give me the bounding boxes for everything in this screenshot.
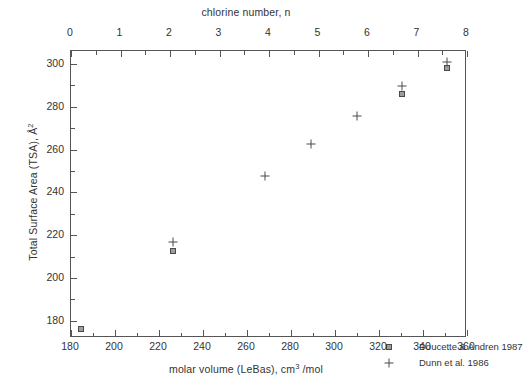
y-tick-major xyxy=(71,150,77,151)
legend-marker-plus xyxy=(385,359,394,368)
top-x-tick-major xyxy=(368,51,369,57)
top-x-tick-major xyxy=(170,51,171,57)
y-axis-title-superscript: 2 xyxy=(26,123,35,127)
y-tick-major xyxy=(71,192,77,193)
y-tick-major xyxy=(71,107,77,108)
top-x-tick-label: 0 xyxy=(67,26,73,38)
y-tick-label: 180 xyxy=(46,314,64,326)
top-x-tick-label: 1 xyxy=(117,26,123,38)
y-tick-major xyxy=(71,64,77,65)
plot-area: Doucette & Andren 1987Dunn et al. 1986 xyxy=(70,50,466,337)
top-x-tick-label: 3 xyxy=(216,26,222,38)
y-tick-major xyxy=(71,321,77,322)
y-tick-minor xyxy=(71,299,75,300)
x-tick-label: 240 xyxy=(193,340,211,352)
top-x-tick-major xyxy=(121,51,122,57)
y-tick-label: 240 xyxy=(46,185,64,197)
top-axis-title: chlorine number, n xyxy=(0,6,492,18)
y-tick-minor xyxy=(71,257,75,258)
x-tick-label: 320 xyxy=(369,340,387,352)
x-axis-title-suffix: /mol xyxy=(299,363,323,375)
top-x-tick-label: 2 xyxy=(166,26,172,38)
y-axis-title: Total Surface Area (TSA), Å2 xyxy=(27,77,39,307)
y-tick-label: 220 xyxy=(46,228,64,240)
top-x-tick-major xyxy=(71,51,72,57)
x-tick-minor xyxy=(181,333,182,337)
x-tick-label: 220 xyxy=(149,340,167,352)
x-tick-major xyxy=(467,330,468,336)
x-tick-minor xyxy=(313,333,314,337)
data-point-plus xyxy=(443,57,452,66)
top-x-tick-minor xyxy=(244,51,245,55)
y-tick-major xyxy=(71,278,77,279)
x-tick-major xyxy=(291,330,292,336)
x-tick-label: 260 xyxy=(237,340,255,352)
top-x-tick-label: 4 xyxy=(265,26,271,38)
top-x-tick-major xyxy=(319,51,320,57)
x-tick-major xyxy=(379,330,380,336)
top-x-tick-label: 8 xyxy=(463,26,469,38)
x-tick-major xyxy=(115,330,116,336)
x-tick-minor xyxy=(225,333,226,337)
x-tick-label: 340 xyxy=(413,340,431,352)
data-point-plus xyxy=(306,140,315,149)
x-axis-title-text: molar volume (LeBas), cm xyxy=(169,363,295,375)
top-x-tick-minor xyxy=(195,51,196,55)
x-tick-minor xyxy=(137,333,138,337)
y-tick-label: 300 xyxy=(46,57,64,69)
x-tick-minor xyxy=(401,333,402,337)
x-tick-minor xyxy=(269,333,270,337)
top-x-tick-major xyxy=(269,51,270,57)
top-x-tick-minor xyxy=(96,51,97,55)
x-tick-label: 200 xyxy=(105,340,123,352)
data-point-plus xyxy=(168,238,177,247)
x-tick-major xyxy=(247,330,248,336)
data-point-square xyxy=(170,248,176,254)
x-tick-label: 180 xyxy=(61,340,79,352)
top-x-tick-minor xyxy=(393,51,394,55)
x-tick-minor xyxy=(93,333,94,337)
y-tick-minor xyxy=(71,85,75,86)
y-tick-minor xyxy=(71,128,75,129)
data-point-plus xyxy=(260,171,269,180)
x-tick-major xyxy=(335,330,336,336)
x-tick-major xyxy=(423,330,424,336)
data-point-square xyxy=(399,91,405,97)
x-tick-label: 280 xyxy=(281,340,299,352)
x-tick-minor xyxy=(445,333,446,337)
data-point-plus xyxy=(353,112,362,121)
y-tick-label: 200 xyxy=(46,271,64,283)
y-axis-title-text: Total Surface Area (TSA), Å xyxy=(27,128,39,261)
top-x-tick-major xyxy=(467,51,468,57)
data-point-plus xyxy=(398,82,407,91)
top-x-tick-major xyxy=(220,51,221,57)
top-x-tick-minor xyxy=(294,51,295,55)
x-tick-label: 360 xyxy=(457,340,475,352)
top-x-tick-label: 7 xyxy=(414,26,420,38)
top-x-tick-label: 6 xyxy=(364,26,370,38)
x-tick-major xyxy=(203,330,204,336)
y-tick-label: 260 xyxy=(46,143,64,155)
y-tick-minor xyxy=(71,171,75,172)
y-tick-minor xyxy=(71,214,75,215)
y-tick-label: 280 xyxy=(46,100,64,112)
x-tick-major xyxy=(159,330,160,336)
top-x-tick-label: 5 xyxy=(315,26,321,38)
y-tick-major xyxy=(71,235,77,236)
x-tick-label: 300 xyxy=(325,340,343,352)
data-point-square xyxy=(78,326,84,332)
top-x-tick-minor xyxy=(343,51,344,55)
legend-label: Dunn et al. 1986 xyxy=(419,355,489,371)
top-x-tick-major xyxy=(418,51,419,57)
top-x-tick-minor xyxy=(145,51,146,55)
x-tick-major xyxy=(71,330,72,336)
x-tick-minor xyxy=(357,333,358,337)
top-x-tick-minor xyxy=(442,51,443,55)
